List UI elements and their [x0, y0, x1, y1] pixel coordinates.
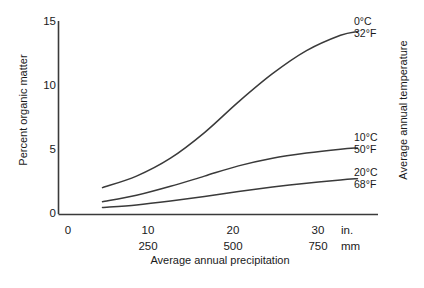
- series-annotation-20c-fahrenheit: 68°F: [354, 178, 377, 190]
- series-annotation-0c-fahrenheit: 32°F: [354, 27, 376, 39]
- y-tick-label-5: 5: [26, 143, 56, 155]
- x-unit-label-mm: mm: [341, 240, 381, 252]
- y-tick-label-10: 10: [26, 79, 56, 91]
- y-tick-label-0: 0: [26, 207, 56, 219]
- series-line-20c: [103, 179, 358, 208]
- x-tick-label-250-mm: 250: [128, 240, 168, 252]
- y-axis-title: Percent organic matter: [17, 30, 29, 190]
- x-axis-title: Average annual precipitation: [100, 254, 340, 266]
- series-annotation-10c-celsius: 10°C: [354, 131, 377, 143]
- series-annotation-10c: 10°C 50°F: [354, 131, 377, 155]
- x-tick-label-30-in: 30: [298, 224, 338, 236]
- right-axis-title: Average annual temperature: [397, 20, 409, 200]
- x-tick-label-10-in: 10: [128, 224, 168, 236]
- x-tick-label-750-mm: 750: [298, 240, 338, 252]
- series-annotation-0c-celsius: 0°C: [354, 15, 376, 27]
- x-tick-label-20-in: 20: [213, 224, 253, 236]
- series-line-0c: [103, 31, 358, 187]
- x-tick-label-0-in: 0: [48, 224, 88, 236]
- series-annotation-10c-fahrenheit: 50°F: [354, 143, 377, 155]
- y-tick-label-15: 15: [26, 15, 56, 27]
- series-annotation-20c-celsius: 20°C: [354, 166, 377, 178]
- series-annotation-20c: 20°C 68°F: [354, 166, 377, 190]
- x-tick-label-500-mm: 500: [213, 240, 253, 252]
- x-unit-label-inches: in.: [341, 224, 381, 236]
- series-annotation-0c: 0°C 32°F: [354, 15, 376, 39]
- chart-figure: 15 10 5 0 0 10 20 30 in. 250 500 750 mm …: [0, 0, 424, 288]
